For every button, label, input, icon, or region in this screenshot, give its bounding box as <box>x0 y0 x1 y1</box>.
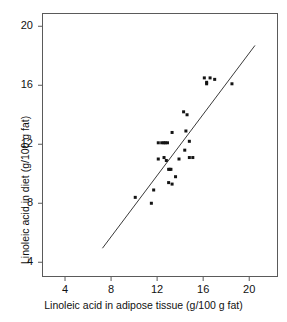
x-tick-label: 20 <box>238 284 260 295</box>
y-tick-label: 20 <box>11 20 33 31</box>
plot-area-frame <box>42 13 278 277</box>
y-axis-label: Linoleic acid in diet (g/100 g fat) <box>19 116 31 264</box>
y-tick-label: 16 <box>11 79 33 90</box>
scatter-plot-figure: 48121620 48121620 Linoleic acid in adipo… <box>0 0 287 322</box>
x-tick-label: 16 <box>192 284 214 295</box>
x-axis-label: Linoleic acid in adipose tissue (g/100 g… <box>0 299 287 311</box>
x-tick-label: 4 <box>54 284 76 295</box>
x-tick-label: 8 <box>100 284 122 295</box>
x-tick-label: 12 <box>146 284 168 295</box>
